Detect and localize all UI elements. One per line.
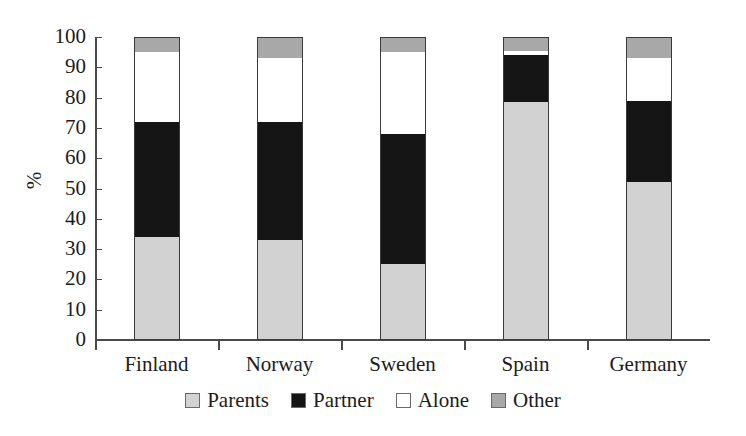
plot-area [95,37,710,340]
legend-label: Partner [313,390,374,411]
bar-segment-other[interactable] [503,37,549,51]
bar-segment-alone[interactable] [626,58,672,100]
bar-segment-partner[interactable] [134,122,180,237]
bar-segment-other[interactable] [380,37,426,52]
bar-segment-alone[interactable] [134,52,180,122]
x-axis-category-label: Sweden [333,352,473,376]
legend-item[interactable]: Alone [396,390,469,411]
legend-label: Parents [207,390,269,411]
legend-swatch-icon [185,393,200,408]
bar-segment-partner[interactable] [503,55,549,102]
bar-segment-parents[interactable] [257,240,303,340]
legend-item[interactable]: Partner [291,390,374,411]
legend-label: Other [513,390,561,411]
y-axis-tick-label: 90 [40,56,86,77]
bar-segment-partner[interactable] [257,122,303,240]
stacked-bar[interactable] [503,37,549,340]
x-axis-category-label: Norway [210,352,350,376]
stacked-bar[interactable] [380,37,426,340]
bar-segment-other[interactable] [134,37,180,52]
bar-group [257,37,303,340]
y-axis-tick-labels: 0102030405060708090100 [40,0,86,436]
legend-item[interactable]: Parents [185,390,269,411]
bar-segment-partner[interactable] [626,101,672,183]
bar-group [380,37,426,340]
x-axis-category-label: Germany [579,352,719,376]
x-axis-tick-mark [341,341,343,350]
x-axis-tick-mark [587,341,589,350]
chart-legend: ParentsPartnerAloneOther [0,390,746,411]
x-axis-category-label: Spain [456,352,596,376]
y-axis-tick-label: 80 [40,87,86,108]
bar-segment-other[interactable] [626,37,672,58]
y-axis-tick-label: 0 [40,329,86,350]
bar-segment-parents[interactable] [503,102,549,340]
stacked-bar[interactable] [626,37,672,340]
y-axis-tick-label: 40 [40,208,86,229]
y-axis-tick-label: 100 [40,26,86,47]
legend-item[interactable]: Other [491,390,561,411]
legend-swatch-icon [491,393,506,408]
legend-label: Alone [418,390,469,411]
stacked-bar[interactable] [257,37,303,340]
y-axis-tick-label: 50 [40,178,86,199]
legend-swatch-icon [291,393,306,408]
y-axis-tick-label: 20 [40,268,86,289]
stacked-bar-chart: % 0102030405060708090100 ParentsPartnerA… [0,0,746,436]
bar-segment-alone[interactable] [257,58,303,122]
bar-segment-partner[interactable] [380,134,426,264]
bar-segment-other[interactable] [257,37,303,58]
legend-swatch-icon [396,393,411,408]
x-axis-category-label: Finland [87,352,227,376]
x-axis-tick-mark [95,341,97,350]
y-axis-tick-label: 60 [40,147,86,168]
y-axis-tick-label: 70 [40,117,86,138]
y-axis-tick-label: 30 [40,238,86,259]
bar-group [626,37,672,340]
y-axis-tick-label: 10 [40,299,86,320]
bar-segment-alone[interactable] [380,52,426,134]
stacked-bar[interactable] [134,37,180,340]
bar-segment-parents[interactable] [626,182,672,340]
x-axis-tick-mark [218,341,220,350]
bar-segment-alone[interactable] [503,51,549,56]
bar-segment-parents[interactable] [380,264,426,340]
bar-group [503,37,549,340]
bar-group [134,37,180,340]
x-axis-tick-mark [464,341,466,350]
bar-segment-parents[interactable] [134,237,180,340]
